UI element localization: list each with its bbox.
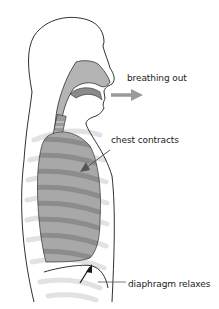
diaphragm xyxy=(44,265,108,288)
breathing-out-arrow-icon xyxy=(111,89,143,101)
body-illustration xyxy=(0,0,219,309)
label-chest-contracts: chest contracts xyxy=(111,136,179,145)
label-breathing-out: breathing out xyxy=(127,74,187,83)
label-diaphragm-relaxes: diaphragm relaxes xyxy=(128,280,210,289)
palate xyxy=(70,88,102,100)
breathing-diagram: breathing out chest contracts diaphragm … xyxy=(0,0,219,309)
